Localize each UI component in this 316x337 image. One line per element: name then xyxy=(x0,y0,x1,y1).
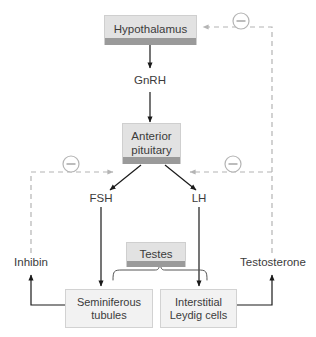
minus-mid-left-icon xyxy=(63,156,79,172)
feedback-testosterone-to-hypothalamus xyxy=(203,27,272,172)
node-interstitial-leydig-cells[interactable]: Interstitial Leydig cells xyxy=(160,289,237,328)
node-testes[interactable]: Testes xyxy=(126,242,186,267)
node-interstitial-leydig-cells-label-line1: Interstitial xyxy=(175,296,222,309)
edge-leydig-to-testosterone xyxy=(236,275,272,305)
node-testes-label: Testes xyxy=(139,248,172,262)
minus-mid-right-icon xyxy=(225,156,241,172)
node-hypothalamus-label: Hypothalamus xyxy=(114,23,188,37)
node-anterior-pituitary-label-line1: Anterior xyxy=(131,130,171,144)
minus-top-right-icon xyxy=(233,13,249,29)
edge-pituitary-to-lh xyxy=(165,165,196,190)
node-anterior-pituitary[interactable]: Anterior pituitary xyxy=(122,123,181,164)
node-testes-base xyxy=(127,261,185,267)
label-fsh: FSH xyxy=(76,192,126,204)
label-lh: LH xyxy=(178,192,220,204)
feedback-testosterone-to-pituitary xyxy=(190,172,272,253)
node-seminiferous-tubules-label-line1: Seminiferous xyxy=(77,296,141,309)
node-anterior-pituitary-label-line2: pituitary xyxy=(131,144,171,158)
node-seminiferous-tubules-label-line2: tubules xyxy=(91,309,126,322)
diagram-connectors xyxy=(0,0,316,337)
edge-seminiferous-to-inhibin xyxy=(31,275,66,305)
endocrine-feedback-diagram: Hypothalamus Anterior pituitary Testes S… xyxy=(0,0,316,337)
node-hypothalamus[interactable]: Hypothalamus xyxy=(104,15,197,45)
label-gnrh: GnRH xyxy=(120,74,180,86)
label-inhibin: Inhibin xyxy=(2,256,60,268)
node-seminiferous-tubules[interactable]: Seminiferous tubules xyxy=(65,289,153,328)
label-testosterone: Testosterone xyxy=(232,256,314,268)
edge-pituitary-to-fsh xyxy=(110,165,141,190)
node-anterior-pituitary-base xyxy=(123,157,180,164)
node-hypothalamus-base xyxy=(105,38,196,45)
testes-brace xyxy=(113,265,207,280)
node-interstitial-leydig-cells-label-line2: Leydig cells xyxy=(170,309,227,322)
